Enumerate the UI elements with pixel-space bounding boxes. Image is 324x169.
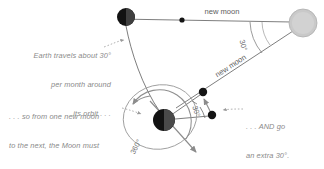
angle-arc-30-sun bbox=[250, 22, 262, 53]
annotation-full-orbit-line-2: to the next, the Moon must bbox=[9, 141, 129, 151]
label-new-moon-diagonal: new moon bbox=[213, 53, 247, 80]
annotation-earth-travels-line-2: per month around bbox=[6, 80, 111, 90]
label-angle-earth: 30° bbox=[190, 105, 202, 118]
astronomy-diagram-figure: new moon new moon 30° 30° 360° Earth tra… bbox=[0, 0, 324, 169]
moon-small-upper-body bbox=[199, 88, 207, 96]
annotation-extra-thirty-line-2: an extra 30°. bbox=[246, 151, 320, 161]
sight-line-horizontal bbox=[118, 19, 292, 22]
label-angle-sun: 30° bbox=[238, 39, 250, 52]
moon-top-body bbox=[117, 8, 135, 26]
annotation-full-orbit-line-1: . . . so from one new moon bbox=[9, 112, 129, 122]
label-new-moon-top: new moon bbox=[204, 7, 239, 16]
leader-line-extra-thirty bbox=[223, 109, 243, 110]
annotation-earth-travels-line-1: Earth travels about 30° bbox=[6, 51, 111, 61]
sight-line-diagonal bbox=[176, 31, 293, 108]
annotation-extra-thirty-line-1: . . . AND go bbox=[246, 122, 320, 132]
annotation-full-orbit: . . . so from one new moon to the next, … bbox=[9, 93, 129, 169]
moon-small-lower-body bbox=[208, 111, 216, 119]
sun-body bbox=[289, 9, 317, 37]
extra-thirty-arrow bbox=[204, 99, 211, 113]
angle-arc-30-sun-inner bbox=[262, 22, 270, 45]
sight-line-node bbox=[179, 17, 184, 22]
annotation-extra-thirty: . . . AND go an extra 30°. bbox=[246, 103, 320, 169]
earth-body bbox=[153, 109, 175, 131]
label-angle-orbit: 360° bbox=[128, 138, 143, 156]
